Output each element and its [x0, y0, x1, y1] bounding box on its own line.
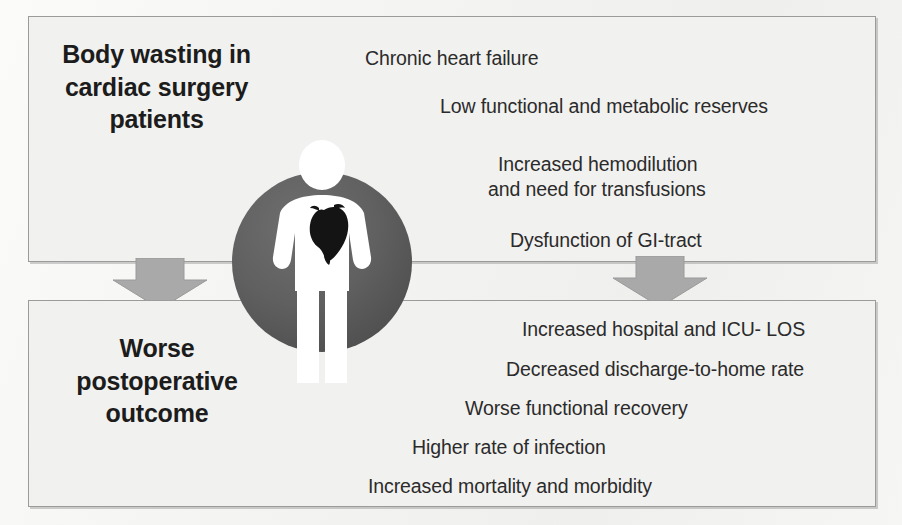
- bottom-panel-item-2: Worse functional recovery: [465, 396, 688, 421]
- top-panel-item-2: Increased hemodilution: [498, 152, 697, 177]
- diagram-canvas: A few articles can be used to understand…: [0, 0, 902, 525]
- human-body-figure-icon: [231, 121, 413, 402]
- top-panel-item-3: and need for transfusions: [488, 177, 706, 202]
- bottom-panel-item-1: Decreased discharge-to-home rate: [506, 357, 804, 382]
- top-panel-item-0: Chronic heart failure: [365, 46, 539, 71]
- bottom-panel-item-0: Increased hospital and ICU- LOS: [522, 317, 805, 342]
- bottom-panel-item-3: Higher rate of infection: [412, 435, 606, 460]
- top-panel-item-1: Low functional and metabolic reserves: [440, 94, 768, 119]
- top-panel-item-4: Dysfunction of GI-tract: [510, 228, 702, 253]
- bottom-panel-item-4: Increased mortality and morbidity: [368, 474, 652, 499]
